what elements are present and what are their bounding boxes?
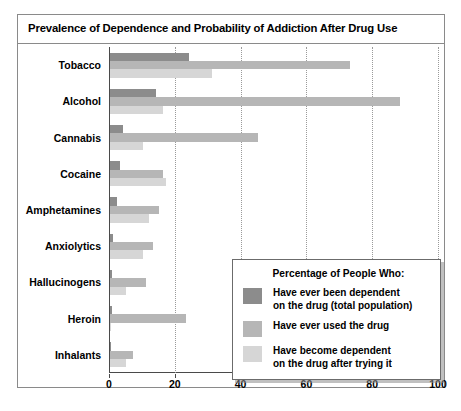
bar — [110, 197, 117, 205]
bar — [110, 270, 112, 278]
category-label: Heroin — [68, 313, 101, 325]
chart-figure: Prevalence of Dependence and Probability… — [17, 14, 445, 388]
bar — [110, 242, 153, 250]
bar — [110, 133, 258, 141]
bar — [110, 359, 126, 367]
bar — [110, 97, 400, 105]
bar-group: Alcohol — [110, 83, 438, 119]
bar — [110, 106, 163, 114]
bar — [110, 170, 163, 178]
bar — [110, 351, 133, 359]
bar — [110, 69, 212, 77]
bar — [110, 178, 166, 186]
category-label: Alcohol — [63, 95, 102, 107]
chart-title: Prevalence of Dependence and Probability… — [28, 22, 397, 34]
legend-item: Have become dependent on the drug after … — [243, 345, 434, 370]
bar — [110, 125, 123, 133]
bar — [110, 278, 146, 286]
legend-label: Have ever used the drug — [273, 320, 389, 333]
category-label: Cannabis — [54, 132, 101, 144]
bar — [110, 206, 159, 214]
legend-swatch — [243, 346, 262, 362]
category-label: Hallucinogens — [29, 276, 101, 288]
legend-label: Have become dependent on the drug after … — [273, 345, 392, 370]
legend-item: Have ever been dependent on the drug (to… — [243, 287, 434, 312]
bar-group: Amphetamines — [110, 192, 438, 228]
category-label: Amphetamines — [26, 204, 101, 216]
bar — [110, 89, 156, 97]
bar — [110, 142, 143, 150]
legend-swatch — [243, 321, 262, 337]
x-tick-label: 20 — [169, 378, 181, 390]
bar-group: Cocaine — [110, 156, 438, 192]
category-label: Tobacco — [59, 59, 101, 71]
legend-title: Percentage of People Who: — [243, 268, 434, 279]
bar — [110, 61, 350, 69]
legend-label: Have ever been dependent on the drug (to… — [273, 287, 412, 312]
bar — [110, 234, 113, 242]
bar — [110, 314, 186, 322]
bar — [110, 53, 189, 61]
title-divider — [18, 43, 444, 44]
bar — [110, 161, 120, 169]
category-label: Inhalants — [55, 349, 101, 361]
bar — [110, 214, 149, 222]
legend-item: Have ever used the drug — [243, 320, 434, 337]
bar — [110, 306, 112, 314]
category-label: Anxiolytics — [45, 240, 101, 252]
bar — [110, 287, 126, 295]
bar-group: Tobacco — [110, 47, 438, 83]
bar — [110, 342, 111, 350]
category-label: Cocaine — [60, 168, 101, 180]
bar-group: Cannabis — [110, 119, 438, 155]
bar — [110, 323, 111, 331]
legend-swatch — [243, 288, 262, 304]
bar — [110, 250, 143, 258]
chart-legend: Percentage of People Who: Have ever been… — [232, 259, 441, 380]
legend-items: Have ever been dependent on the drug (to… — [243, 287, 434, 370]
x-tick-label: 0 — [106, 378, 112, 390]
